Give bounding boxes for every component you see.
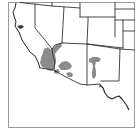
map-frame <box>9 3 135 128</box>
range-map <box>0 0 139 134</box>
